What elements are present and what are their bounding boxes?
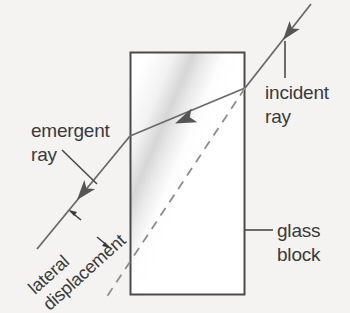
- emergent-ray-label-line2: ray: [31, 144, 57, 165]
- incident-ray-label-line2: ray: [265, 106, 291, 127]
- glass-block-label-line1: glass: [277, 220, 320, 241]
- refraction-diagram: incident ray emergent ray glass block la…: [0, 0, 350, 313]
- emergent-ray-label-line1: emergent: [31, 120, 111, 141]
- glass-block-label-line2: block: [277, 244, 321, 265]
- incident-ray-label-line1: incident: [265, 82, 330, 103]
